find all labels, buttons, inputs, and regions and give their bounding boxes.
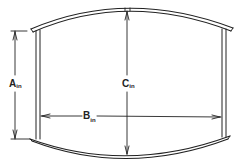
- dimension-c-label: Cin: [122, 78, 135, 89]
- dimension-b-line: [41, 114, 221, 119]
- bottom-arc: [30, 136, 230, 159]
- right-wall: [222, 29, 226, 137]
- dimension-b-label: Bin: [83, 110, 96, 123]
- dimension-a-label: Ain: [9, 78, 22, 89]
- top-arc: [31, 8, 233, 32]
- barrel-cross-section-diagram: Ain Cin Bin: [0, 0, 246, 165]
- left-wall: [36, 30, 40, 139]
